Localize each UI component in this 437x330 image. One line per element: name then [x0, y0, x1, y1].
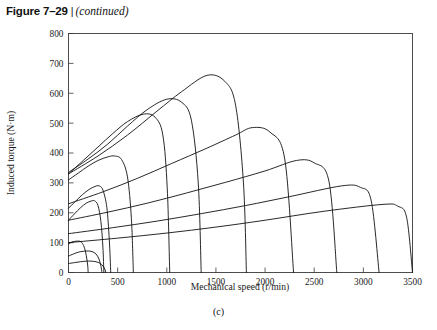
y-tick-label: 700 [50, 59, 64, 69]
figure-number: Figure 7–29 [6, 5, 68, 17]
curve-1 [69, 241, 89, 272]
plot-frame [69, 34, 413, 273]
x-tick-label: 2500 [305, 277, 324, 287]
x-axis-title: Mechanical speed (r/min) [191, 281, 290, 292]
y-axis-title: Induced torque (N·m) [5, 111, 17, 195]
y-tick-label: 400 [50, 148, 64, 158]
x-tick-label: 1000 [157, 277, 176, 287]
y-tick-label: 500 [50, 119, 64, 129]
y-tick-label: 200 [50, 208, 64, 218]
curve-11 [69, 160, 337, 273]
figure-continued-label: (continued) [75, 5, 128, 17]
curve-13 [69, 204, 413, 273]
curve-10 [69, 127, 294, 272]
y-tick-label: 600 [50, 89, 64, 99]
curve-4 [69, 200, 104, 272]
y-tick-label: 300 [50, 178, 64, 188]
x-tick-label: 500 [111, 277, 125, 287]
curve-9 [69, 75, 247, 273]
x-tick-label: 3000 [354, 277, 373, 287]
y-axis-ticks: 0100200300400500600700800 [50, 29, 74, 278]
curve-8 [69, 99, 202, 273]
figure-container: Figure 7–29|(continued) 0500100015002000… [0, 0, 437, 330]
x-tick-label: 0 [66, 277, 71, 287]
y-tick-label: 800 [50, 29, 64, 39]
curve-group [69, 75, 413, 273]
curve-12 [69, 185, 380, 272]
figure-separator: | [71, 5, 74, 17]
sub-caption: (c) [0, 306, 437, 317]
plot-area: 0500100015002000250030003500 01002003004… [0, 22, 437, 292]
y-tick-label: 0 [59, 268, 64, 278]
torque-speed-chart: 0500100015002000250030003500 01002003004… [0, 22, 437, 292]
x-tick-label: 3500 [403, 277, 422, 287]
y-tick-label: 100 [50, 238, 64, 248]
curve-6 [69, 156, 134, 273]
figure-caption-header: Figure 7–29|(continued) [6, 4, 128, 18]
